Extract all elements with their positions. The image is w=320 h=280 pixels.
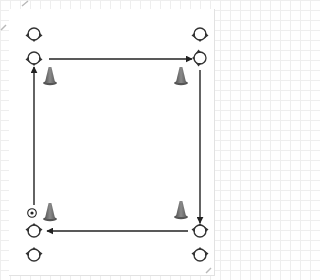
soccer-ball-icon	[28, 209, 37, 218]
cone-icon	[174, 67, 188, 85]
player-icon	[26, 247, 43, 261]
player-icon	[192, 247, 209, 261]
player-icon	[26, 52, 43, 66]
corner-mark	[206, 268, 211, 273]
player-icon	[26, 223, 43, 237]
cone-icon	[174, 201, 188, 219]
corner-mark	[1, 25, 6, 30]
player-icon	[192, 28, 209, 42]
cone-icon	[43, 67, 57, 85]
drill-diagram	[0, 0, 226, 280]
player-icon	[192, 223, 209, 237]
player-icon	[192, 50, 206, 67]
corner-mark	[22, 1, 28, 6]
cone-icon	[43, 203, 57, 221]
player-icon	[26, 28, 43, 42]
